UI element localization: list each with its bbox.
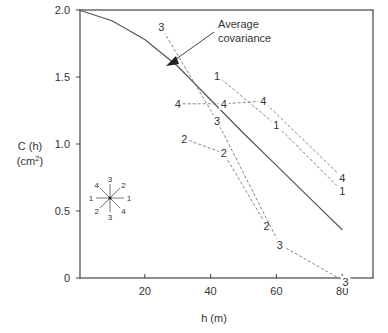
series-3: 3333 [156, 21, 350, 288]
plot-frame [80, 10, 373, 278]
svg-text:covariance: covariance [218, 32, 271, 44]
y-axis: 00.51.01.52.0 [55, 4, 80, 284]
point-label: 3 [277, 239, 283, 251]
direction-label: 3 [108, 175, 113, 184]
x-tick-label: 20 [139, 285, 151, 297]
series-layer: 11122233334444 [79, 10, 350, 288]
y-tick-label: 0 [64, 272, 70, 284]
direction-label: 4 [94, 181, 99, 190]
x-tick-label: 60 [270, 285, 282, 297]
y-axis-title-line1: C (h) [18, 140, 42, 152]
average-covariance-annotation: Average covariance [166, 18, 271, 66]
point-label: 3 [158, 21, 164, 33]
series-average [79, 10, 342, 230]
direction-label: 3 [108, 213, 113, 222]
point-label: 4 [221, 98, 227, 110]
x-axis-title: h (m) [201, 312, 227, 324]
point-label: 4 [175, 98, 181, 110]
point-label: 3 [214, 115, 220, 127]
covariance-chart: 00.51.01.52.0 20406080 C (h) (cm2) h (m)… [0, 0, 388, 333]
series-1: 111 [212, 70, 347, 197]
y-axis-title-line2: (cm2) [17, 154, 43, 167]
point-label: 1 [273, 119, 279, 131]
direction-label: 1 [89, 194, 94, 203]
y-tick-label: 1.5 [55, 71, 70, 83]
point-label: 4 [339, 172, 345, 184]
arrowhead-icon [166, 56, 179, 66]
y-tick-label: 2.0 [55, 4, 70, 16]
point-label: 1 [339, 185, 345, 197]
svg-text:Average: Average [218, 18, 259, 30]
y-tick-label: 1.0 [55, 138, 70, 150]
point-label: 2 [181, 133, 187, 145]
direction-label: 4 [121, 207, 126, 216]
direction-label: 1 [127, 194, 132, 203]
point-label: 4 [260, 95, 266, 107]
direction-label: 2 [94, 207, 99, 216]
point-label: 3 [342, 276, 348, 288]
direction-label: 2 [121, 181, 126, 190]
point-label: 1 [214, 70, 220, 82]
point-label: 2 [221, 147, 227, 159]
point-label: 2 [263, 220, 269, 232]
direction-star-inset: 32143214 [89, 175, 132, 222]
y-tick-label: 0.5 [55, 205, 70, 217]
x-tick-label: 40 [204, 285, 216, 297]
